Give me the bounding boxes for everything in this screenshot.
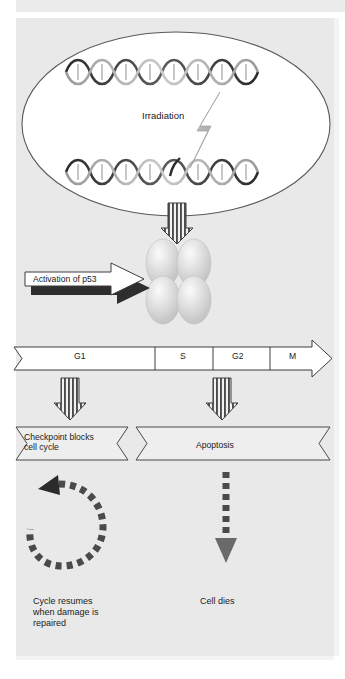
cell-cycle-bar <box>14 340 332 377</box>
phase-label-g2: G2 <box>232 351 243 361</box>
irradiation-label: Irradiation <box>142 110 184 122</box>
dashed-down-arrow <box>215 472 237 563</box>
striped-down-arrow-g1 <box>54 378 86 420</box>
figure-canvas: Irradiation Activation of p53 G1 S G2 M … <box>0 0 345 679</box>
striped-down-arrow-g2 <box>206 378 238 420</box>
phase-label-s: S <box>180 351 186 361</box>
activation-of-p53-label: Activation of p53 <box>33 274 97 284</box>
phase-label-g1: G1 <box>74 351 85 361</box>
p53-tetramer <box>146 239 211 324</box>
phase-label-m: M <box>289 351 296 361</box>
cell-dies-caption: Cell dies <box>200 596 235 607</box>
checkpoint-banner-label: Checkpoint blocks cell cycle <box>24 432 94 453</box>
dashed-circular-arrow <box>30 475 103 566</box>
diagram-vector-layer <box>0 0 345 679</box>
cycle-resumes-caption: Cycle resumes when damage is repaired <box>33 596 99 629</box>
apoptosis-banner-label: Apoptosis <box>196 440 234 450</box>
